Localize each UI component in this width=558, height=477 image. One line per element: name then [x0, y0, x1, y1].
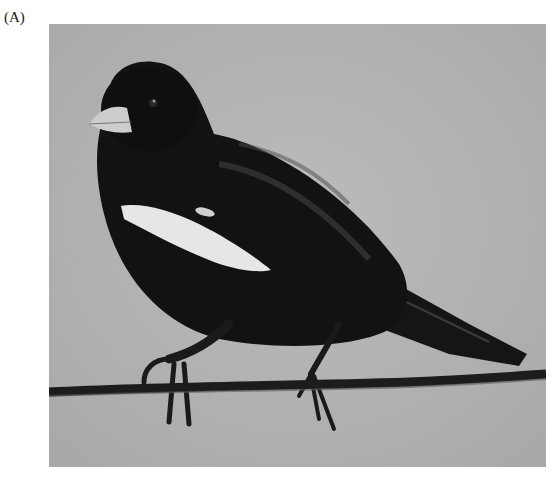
- bird-photograph: [49, 24, 546, 467]
- panel-label: (A): [4, 9, 25, 26]
